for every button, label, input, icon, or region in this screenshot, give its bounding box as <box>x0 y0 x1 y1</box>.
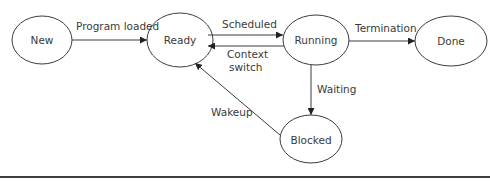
node-ready-label: Ready <box>164 34 197 46</box>
edge-program-loaded: Program loaded <box>72 20 159 40</box>
edge-termination-label: Termination <box>354 22 417 34</box>
edge-program-loaded-label: Program loaded <box>76 20 159 32</box>
node-blocked-label: Blocked <box>290 134 331 146</box>
edge-wakeup-label: Wakeup <box>211 106 253 118</box>
edge-wakeup: Wakeup <box>195 63 280 135</box>
node-new: New <box>12 16 72 64</box>
node-new-label: New <box>31 34 54 46</box>
edge-scheduled: Scheduled <box>208 18 283 35</box>
state-diagram: New Ready Running Done Blocked Program l… <box>0 0 490 181</box>
node-blocked: Blocked <box>280 115 342 163</box>
edge-context-switch: Context switch <box>208 46 284 73</box>
node-running: Running <box>283 15 349 65</box>
node-done: Done <box>415 16 487 66</box>
edge-scheduled-label: Scheduled <box>222 18 277 30</box>
edge-termination: Termination <box>349 22 417 41</box>
edge-context-switch-label-line2: switch <box>229 61 263 73</box>
horizontal-rule <box>0 176 490 178</box>
edge-waiting-label: Waiting <box>317 83 356 95</box>
edge-context-switch-label-line1: Context <box>227 48 268 60</box>
edge-waiting: Waiting <box>311 65 356 115</box>
node-done-label: Done <box>437 35 465 47</box>
node-running-label: Running <box>294 34 337 46</box>
